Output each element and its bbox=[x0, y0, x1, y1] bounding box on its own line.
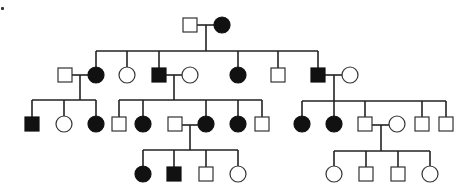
relationship-lines bbox=[32, 25, 446, 167]
affected-female-symbol bbox=[326, 116, 342, 132]
unaffected-male-symbol bbox=[255, 117, 269, 131]
unaffected-male-symbol bbox=[391, 167, 405, 181]
unaffected-male-symbol bbox=[439, 117, 453, 131]
affected-female-symbol bbox=[135, 166, 151, 182]
unaffected-female-symbol bbox=[389, 116, 405, 132]
unaffected-female-symbol bbox=[342, 67, 358, 83]
unaffected-male-symbol bbox=[199, 167, 213, 181]
affected-male-symbol bbox=[167, 167, 181, 181]
affected-female-symbol bbox=[230, 67, 246, 83]
unaffected-male-symbol bbox=[415, 117, 429, 131]
affected-female-symbol bbox=[294, 116, 310, 132]
unaffected-male-symbol bbox=[168, 117, 182, 131]
unaffected-male-symbol bbox=[58, 68, 72, 82]
affected-female-symbol bbox=[88, 116, 104, 132]
unaffected-female-symbol bbox=[326, 166, 342, 182]
affected-female-symbol bbox=[88, 67, 104, 83]
unaffected-female-symbol bbox=[56, 116, 72, 132]
affected-female-symbol bbox=[198, 116, 214, 132]
unaffected-female-symbol bbox=[119, 67, 135, 83]
unaffected-male-symbol bbox=[358, 117, 372, 131]
unaffected-female-symbol bbox=[422, 166, 438, 182]
unaffected-female-symbol bbox=[230, 166, 246, 182]
affected-female-symbol bbox=[135, 116, 151, 132]
affected-male-symbol bbox=[25, 117, 39, 131]
affected-male-symbol bbox=[311, 68, 325, 82]
unaffected-male-symbol bbox=[112, 117, 126, 131]
affected-male-symbol bbox=[152, 68, 166, 82]
pedigree-diagram bbox=[0, 0, 473, 194]
affected-female-symbol bbox=[230, 116, 246, 132]
unaffected-male-symbol bbox=[359, 167, 373, 181]
unaffected-female-symbol bbox=[182, 67, 198, 83]
affected-female-symbol bbox=[214, 17, 230, 33]
unaffected-male-symbol bbox=[271, 68, 285, 82]
unaffected-male-symbol bbox=[183, 18, 197, 32]
